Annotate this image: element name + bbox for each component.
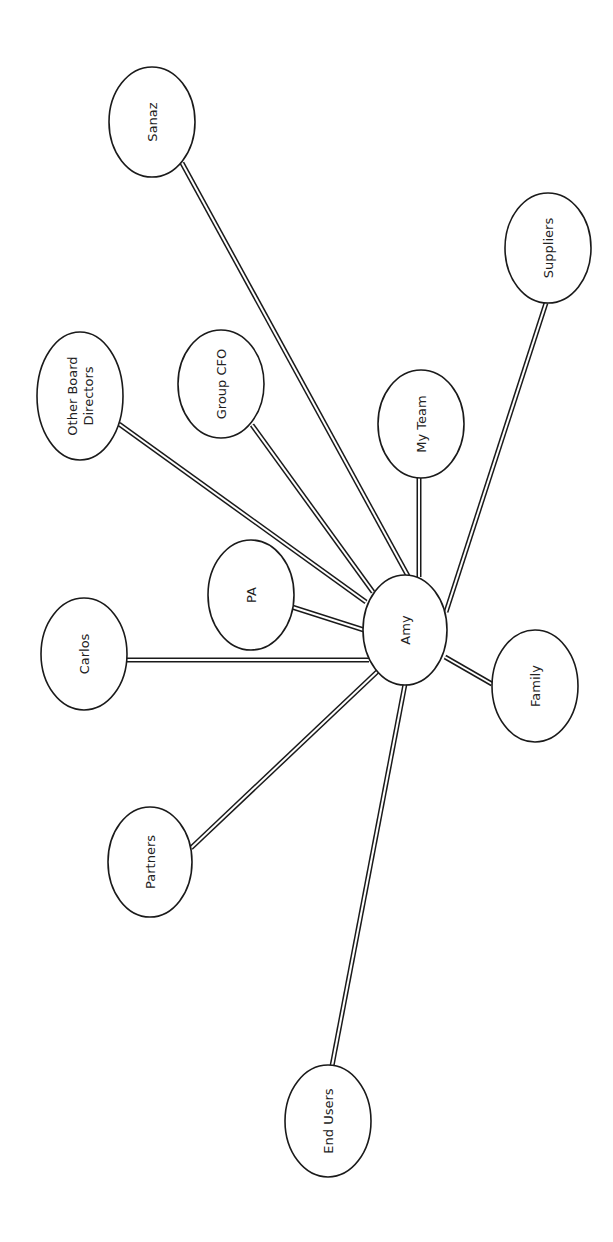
node-label: Suppliers: [541, 218, 556, 279]
node-label: Group CFO: [214, 349, 229, 420]
node-label: Partners: [143, 835, 158, 889]
node-my-team: My Team: [378, 370, 464, 478]
node-label-line: PA: [244, 587, 259, 603]
node-label-line: Partners: [143, 835, 158, 889]
node-label-line: Sanaz: [145, 102, 160, 141]
node-label-line: Other Board: [65, 356, 80, 435]
node-label-line: Carlos: [77, 633, 92, 674]
stakeholder-diagram: AmySanazSuppliersOther BoardDirectorsGro…: [0, 0, 613, 1242]
node-label-line: Directors: [81, 366, 96, 425]
node-label-line: Family: [528, 665, 543, 707]
node-label-line: End Users: [321, 1088, 336, 1153]
node-label: End Users: [321, 1088, 336, 1153]
node-label: Other BoardDirectors: [65, 356, 96, 435]
node-family: Family: [492, 630, 578, 742]
node-carlos: Carlos: [41, 598, 127, 710]
node-label: Sanaz: [145, 102, 160, 141]
node-label: PA: [244, 587, 259, 603]
node-label: Amy: [398, 615, 413, 645]
node-label: Family: [528, 665, 543, 707]
node-label: Carlos: [77, 633, 92, 674]
node-label-line: Suppliers: [541, 218, 556, 279]
node-label: My Team: [414, 395, 429, 452]
node-amy: Amy: [363, 575, 447, 685]
node-pa: PA: [208, 540, 294, 650]
node-end-users: End Users: [285, 1065, 371, 1177]
node-label-line: Group CFO: [214, 349, 229, 420]
node-suppliers: Suppliers: [505, 193, 591, 303]
node-sanaz: Sanaz: [109, 67, 195, 177]
node-group-cfo: Group CFO: [178, 330, 264, 438]
node-label-line: My Team: [414, 395, 429, 452]
node-partners: Partners: [108, 807, 192, 917]
node-other-board-directors: Other BoardDirectors: [37, 332, 123, 460]
node-label-line: Amy: [398, 615, 413, 645]
